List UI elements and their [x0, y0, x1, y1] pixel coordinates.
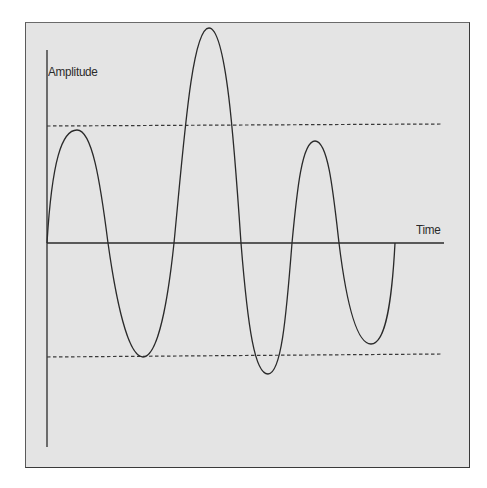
- waveform-curve: [47, 28, 395, 374]
- y-axis-label: Amplitude: [48, 64, 98, 79]
- lower-threshold-line: [47, 354, 442, 357]
- x-axis-label: Time: [416, 222, 440, 237]
- upper-threshold-line: [47, 124, 442, 126]
